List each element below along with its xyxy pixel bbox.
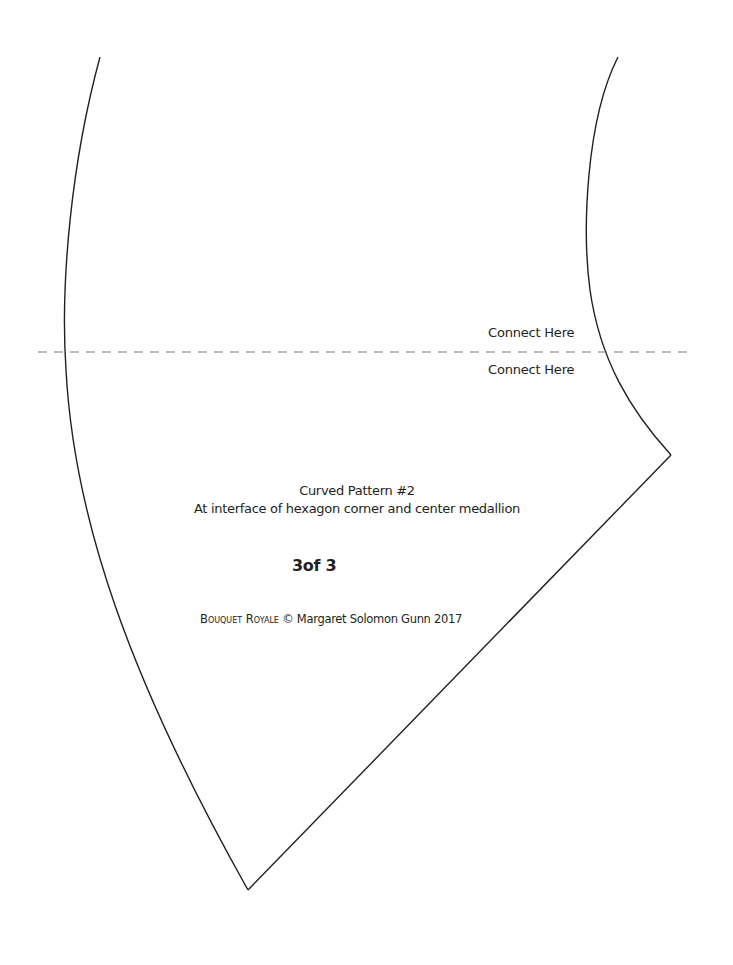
left-curved-edge [64, 57, 248, 890]
straight-edge [248, 455, 671, 890]
connect-here-label-below: Connect Here [488, 362, 574, 377]
copyright-symbol: © [282, 612, 293, 626]
author-year: Margaret Solomon Gunn 2017 [297, 612, 462, 626]
pattern-title: Curved Pattern #2 [180, 482, 534, 500]
connect-here-label-above: Connect Here [488, 325, 574, 340]
right-curved-edge [586, 57, 671, 455]
pattern-subtitle: At interface of hexagon corner and cente… [180, 500, 534, 518]
copyright-line: Bouquet Royale © Margaret Solomon Gunn 2… [200, 612, 462, 626]
page-count: 3of 3 [292, 556, 336, 575]
brand-name: Bouquet Royale [200, 612, 279, 626]
pattern-title-block: Curved Pattern #2 At interface of hexago… [180, 482, 534, 518]
